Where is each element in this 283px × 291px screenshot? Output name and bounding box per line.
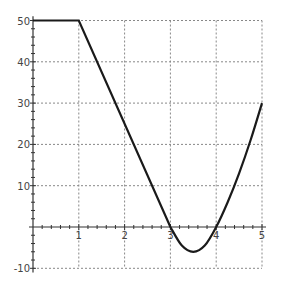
y-tick-label: 30 — [17, 98, 30, 109]
tick-labels: 12345-101020304050 — [14, 16, 266, 275]
y-tick-label: -10 — [14, 263, 30, 274]
x-tick-label: 1 — [76, 230, 82, 241]
x-tick-label: 2 — [121, 230, 127, 241]
data-line — [33, 21, 262, 252]
grid-lines — [33, 21, 262, 269]
y-tick-label: 40 — [17, 57, 30, 68]
y-tick-label: 50 — [17, 16, 30, 27]
line-chart: 12345-101020304050 — [0, 0, 283, 291]
y-tick-label: 10 — [17, 181, 30, 192]
y-tick-label: 20 — [17, 139, 30, 150]
x-tick-label: 5 — [259, 230, 265, 241]
